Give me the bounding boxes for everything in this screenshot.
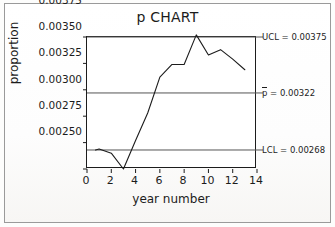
x-axis-label: year number	[86, 192, 256, 206]
y-tick-label: 0.00300	[22, 73, 82, 85]
x-tick-label: 14	[246, 174, 266, 187]
y-tick-label: 0.00275	[22, 99, 82, 111]
center-line-annotation: p = 0.00322	[262, 88, 315, 98]
y-tick-labels: 0.00375 0.00350 0.00325 0.00300 0.00275 …	[18, 0, 82, 132]
x-tick-label: 8	[173, 174, 193, 187]
plot-svg	[87, 37, 257, 169]
p-bar-symbol: p	[262, 88, 267, 98]
y-tick-label: 0.00375	[22, 0, 82, 6]
x-tick-label: 2	[100, 174, 120, 187]
x-tick-label: 4	[125, 174, 145, 187]
y-tick-label: 0.00350	[22, 20, 82, 32]
lcl-annotation: LCL = 0.00268	[262, 145, 325, 155]
x-tick-labels: 0 2 4 6 8 10 12 14	[86, 174, 256, 190]
y-tick-label: 0.00250	[22, 125, 82, 137]
x-tick-label: 6	[149, 174, 169, 187]
center-line-value: = 0.00322	[267, 88, 315, 98]
p-chart-figure: p CHART proportion 0.00375 0.00350 0.003…	[0, 0, 335, 227]
control-limit-lines	[87, 37, 263, 150]
y-tick-label: 0.00325	[22, 46, 82, 58]
ucl-annotation: UCL = 0.00375	[262, 32, 327, 42]
data-series-line	[96, 35, 245, 169]
x-tick-label: 0	[76, 174, 96, 187]
x-tick-label: 12	[222, 174, 242, 187]
plot-area	[86, 36, 256, 168]
x-tick-label: 10	[197, 174, 217, 187]
